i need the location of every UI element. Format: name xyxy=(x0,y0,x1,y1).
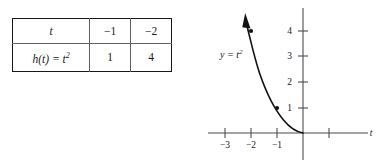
y-tick-label-4: 4 xyxy=(287,26,292,36)
x-axis-label: t xyxy=(370,128,373,138)
table-row-h: h(t) = t2 1 4 xyxy=(13,44,172,72)
y-tick-label-2: 2 xyxy=(287,77,292,87)
x-tick-label--2: −2 xyxy=(246,140,256,150)
table-cell-t-col2: −2 xyxy=(131,19,172,44)
table-row-header-h-exponent: 2 xyxy=(66,51,70,60)
x-tick-label--1: −1 xyxy=(272,140,282,150)
table-cell-row-header-t: t xyxy=(13,19,90,44)
parabola-curve xyxy=(247,26,303,133)
data-point--1-1 xyxy=(275,106,279,110)
y-tick-label-1: 1 xyxy=(287,103,292,113)
graph-panel: −3 −2 −1 1 2 3 4 t y = t2 xyxy=(190,0,380,165)
table-row-t: t −1 −2 xyxy=(13,19,172,44)
table-cell-t-col1: −1 xyxy=(90,19,131,44)
data-point--2-4 xyxy=(249,29,253,33)
curve-arrowhead xyxy=(242,13,250,29)
curve-label-exponent: 2 xyxy=(239,48,243,56)
table-cell-h-col1: 1 xyxy=(90,44,131,72)
table-row-header-h-text: h(t) = t xyxy=(33,53,66,65)
table-cell-h-col2: 4 xyxy=(131,44,172,72)
parabola-graph: −3 −2 −1 1 2 3 4 t y = t2 xyxy=(190,0,380,165)
table-cell-row-header-h: h(t) = t2 xyxy=(13,44,90,72)
curve-label: y = t2 xyxy=(219,48,243,60)
values-table: t −1 −2 h(t) = t2 1 4 xyxy=(12,18,172,72)
x-tick-label--3: −3 xyxy=(220,140,230,150)
curve-label-text: y = t xyxy=(219,49,239,60)
y-tick-label-3: 3 xyxy=(287,51,292,61)
